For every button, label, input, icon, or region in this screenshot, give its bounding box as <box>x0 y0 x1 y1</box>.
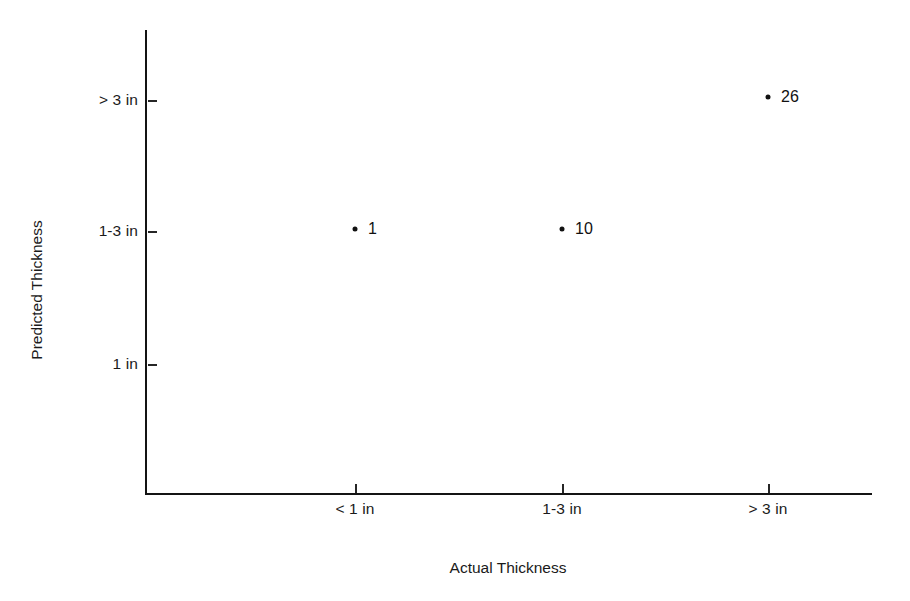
scatter-chart: 1 in 1-3 in > 3 in < 1 in 1-3 in > 3 in … <box>0 0 910 601</box>
y-axis-title: Predicted Thickness <box>28 220 46 359</box>
y-tick-mark-1-3-in <box>148 231 157 233</box>
x-tick-mark-1-3-in <box>562 484 564 493</box>
y-tick-label-1-in: 1 in <box>113 355 138 373</box>
x-tick-label-gt-3-in: > 3 in <box>749 500 788 518</box>
data-point-marker <box>766 95 771 100</box>
y-tick-mark-gt-3-in <box>148 100 157 102</box>
data-point-label: 10 <box>575 220 593 238</box>
x-tick-label-1-3-in: 1-3 in <box>542 500 581 518</box>
x-tick-label-lt-1-in: < 1 in <box>336 500 375 518</box>
data-point-label: 1 <box>368 220 377 238</box>
x-tick-mark-lt-1-in <box>355 484 357 493</box>
y-tick-mark-1-in <box>148 364 157 366</box>
x-axis-line <box>145 493 872 495</box>
x-axis-title: Actual Thickness <box>450 559 567 577</box>
x-tick-mark-gt-3-in <box>768 484 770 493</box>
data-point-label: 26 <box>781 88 799 106</box>
y-tick-label-1-3-in: 1-3 in <box>99 222 138 240</box>
y-tick-label-gt-3-in: > 3 in <box>99 91 138 109</box>
data-point-marker <box>353 227 358 232</box>
data-point-marker <box>560 227 565 232</box>
